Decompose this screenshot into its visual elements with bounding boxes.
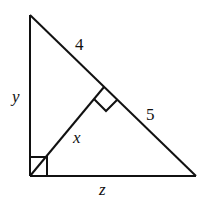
label-hyp-upper: 4 [75,35,84,54]
label-altitude: x [72,128,81,147]
altitude [30,87,104,176]
right-angle-mark-altitude [94,99,117,111]
triangle-diagram: 4 5 y x z [0,0,207,204]
label-bottom-leg: z [98,180,106,199]
label-left-leg: y [10,87,20,106]
hypotenuse [30,15,196,176]
label-hyp-lower: 5 [146,105,155,124]
